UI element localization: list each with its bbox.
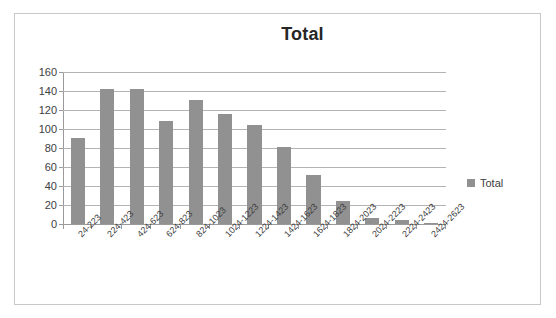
x-label-cell: 1824-2023 bbox=[328, 224, 357, 294]
chart-title: Total bbox=[15, 24, 540, 45]
legend-swatch-total bbox=[467, 179, 475, 187]
bar-824-1023[interactable] bbox=[189, 100, 203, 224]
bar-slot bbox=[387, 72, 416, 224]
y-tick-label-0: 0 bbox=[51, 218, 57, 230]
legend-label-total: Total bbox=[480, 177, 503, 189]
bar-slot bbox=[181, 72, 210, 224]
x-label-cell: 24-223 bbox=[63, 224, 92, 294]
bar-624-823[interactable] bbox=[159, 121, 173, 224]
y-tick-label-20: 20 bbox=[45, 199, 57, 211]
x-label-cell: 1624-1823 bbox=[299, 224, 328, 294]
bar-slot bbox=[417, 72, 446, 224]
x-label-cell: 1224-1423 bbox=[240, 224, 269, 294]
x-label-cell: 824-1023 bbox=[181, 224, 210, 294]
bar-slot bbox=[299, 72, 328, 224]
bar-224-423[interactable] bbox=[100, 89, 114, 224]
y-tick-label-80: 80 bbox=[45, 142, 57, 154]
y-tick-label-40: 40 bbox=[45, 180, 57, 192]
chart-frame: Total 160140120100806040200 24-223224-42… bbox=[14, 13, 541, 305]
x-label-cell: 1024-1223 bbox=[210, 224, 239, 294]
x-label-cell: 624-823 bbox=[151, 224, 180, 294]
bar-slot bbox=[92, 72, 121, 224]
bar-slot bbox=[122, 72, 151, 224]
bar-slot bbox=[328, 72, 357, 224]
y-tick-label-160: 160 bbox=[39, 66, 57, 78]
y-tick-label-100: 100 bbox=[39, 123, 57, 135]
x-label-cell: 2024-2223 bbox=[358, 224, 387, 294]
x-label-cell: 224-423 bbox=[92, 224, 121, 294]
bar-24-223[interactable] bbox=[71, 138, 85, 224]
x-label-cell: 2224-2423 bbox=[387, 224, 416, 294]
bar-slot bbox=[210, 72, 239, 224]
y-tick-label-60: 60 bbox=[45, 161, 57, 173]
bar-slot bbox=[240, 72, 269, 224]
bar-slot bbox=[151, 72, 180, 224]
plot-area: 160140120100806040200 24-223224-423424-6… bbox=[63, 72, 446, 224]
x-label-cell: 424-623 bbox=[122, 224, 151, 294]
y-tick-label-140: 140 bbox=[39, 85, 57, 97]
x-label-cell: 1424-1623 bbox=[269, 224, 298, 294]
bar-slot bbox=[63, 72, 92, 224]
y-tick-label-120: 120 bbox=[39, 104, 57, 116]
chart-legend: Total bbox=[467, 177, 503, 189]
bar-slot bbox=[358, 72, 387, 224]
bars-layer bbox=[63, 72, 446, 224]
bar-424-623[interactable] bbox=[130, 89, 144, 224]
x-axis-labels: 24-223224-423424-623624-823824-10231024-… bbox=[63, 224, 446, 294]
x-label-cell: 2424-2623 bbox=[417, 224, 446, 294]
